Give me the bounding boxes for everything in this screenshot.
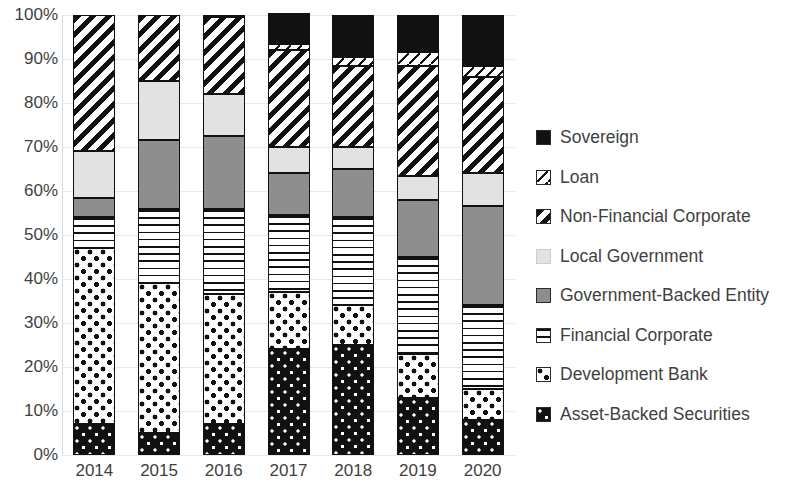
x-axis-tick-label: 2017 (256, 461, 321, 481)
gridline-0 (62, 455, 515, 456)
y-axis-tick-label: 30% (0, 314, 58, 331)
legend-item[interactable]: Sovereign (536, 118, 794, 158)
bar-segment[interactable] (73, 424, 115, 455)
y-axis-tick-label: 0% (0, 446, 58, 463)
legend-item-label: Sovereign (560, 128, 639, 147)
bar-segment[interactable] (138, 140, 180, 208)
bar-segment[interactable] (203, 15, 245, 17)
bar-segment[interactable] (397, 257, 439, 354)
bar-segment[interactable] (397, 354, 439, 398)
legend-item-label: Non-Financial Corporate (560, 207, 751, 226)
bar-2020[interactable] (462, 15, 504, 455)
y-axis-tick-label: 10% (0, 402, 58, 419)
bar-segment[interactable] (203, 94, 245, 136)
bar-segment[interactable] (462, 305, 504, 389)
stacked-bar-chart: 0%10%20%30%40%50%60%70%80%90%100% Sovere… (0, 0, 795, 492)
chart-legend: SovereignLoanNon-Financial CorporateLoca… (536, 118, 794, 434)
y-axis-tick-label: 90% (0, 50, 58, 67)
y-axis: 0%10%20%30%40%50%60%70%80%90%100% (0, 0, 58, 492)
legend-item[interactable]: Development Bank (536, 355, 794, 395)
legend-item-label: Local Government (560, 247, 703, 266)
legend-item-label: Development Bank (560, 365, 708, 384)
bar-segment[interactable] (73, 217, 115, 248)
bar-segment[interactable] (332, 66, 374, 147)
bar-segment[interactable] (462, 66, 504, 77)
bar-segment[interactable] (397, 66, 439, 176)
bar-segment[interactable] (268, 292, 310, 349)
legend-item-label: Asset-Backed Securities (560, 405, 750, 424)
bar-segment[interactable] (138, 81, 180, 140)
x-axis-tick-label: 2014 (62, 461, 127, 481)
legend-item[interactable]: Asset-Backed Securities (536, 395, 794, 435)
legend-item[interactable]: Local Government (536, 237, 794, 277)
bar-segment[interactable] (332, 345, 374, 455)
bar-segment[interactable] (73, 198, 115, 218)
bar-2017[interactable] (268, 15, 310, 455)
bar-2015[interactable] (138, 15, 180, 455)
legend-swatch-icon (536, 367, 551, 382)
legend-item-label: Financial Corporate (560, 326, 713, 345)
bar-segment[interactable] (397, 200, 439, 257)
legend-item[interactable]: Non-Financial Corporate (536, 197, 794, 237)
bar-segment[interactable] (397, 52, 439, 65)
bar-segment[interactable] (462, 173, 504, 206)
bar-segment[interactable] (462, 77, 504, 174)
bar-segment[interactable] (268, 13, 310, 44)
x-axis-tick-label: 2015 (127, 461, 192, 481)
bar-segment[interactable] (138, 283, 180, 433)
bar-segment[interactable] (203, 294, 245, 424)
bar-segment[interactable] (138, 433, 180, 455)
legend-swatch-icon (536, 130, 551, 145)
bar-segment[interactable] (397, 15, 439, 52)
bar-segment[interactable] (268, 349, 310, 455)
y-axis-tick-label: 70% (0, 138, 58, 155)
bar-segment[interactable] (203, 209, 245, 295)
bar-segment[interactable] (332, 57, 374, 66)
y-axis-tick-label: 40% (0, 270, 58, 287)
y-axis-tick-label: 50% (0, 226, 58, 243)
bar-segment[interactable] (138, 209, 180, 284)
legend-item[interactable]: Government-Backed Entity (536, 276, 794, 316)
x-axis-tick-label: 2018 (321, 461, 386, 481)
bar-segment[interactable] (332, 15, 374, 57)
legend-item[interactable]: Loan (536, 158, 794, 198)
bar-segment[interactable] (462, 420, 504, 455)
bar-segment[interactable] (73, 248, 115, 424)
bar-segment[interactable] (203, 424, 245, 455)
bar-segment[interactable] (397, 398, 439, 455)
bar-segment[interactable] (332, 305, 374, 345)
bar-segment[interactable] (268, 215, 310, 292)
bar-segment[interactable] (332, 169, 374, 217)
bar-segment[interactable] (332, 217, 374, 305)
x-axis-tick-label: 2019 (386, 461, 451, 481)
bar-segment[interactable] (332, 147, 374, 169)
bar-2019[interactable] (397, 15, 439, 455)
bar-2018[interactable] (332, 15, 374, 455)
bar-segment[interactable] (73, 15, 115, 151)
bar-segment[interactable] (203, 17, 245, 94)
bar-segment[interactable] (462, 389, 504, 420)
bar-segment[interactable] (138, 15, 180, 81)
legend-swatch-icon (536, 209, 551, 224)
legend-swatch-icon (536, 328, 551, 343)
y-axis-tick-label: 80% (0, 94, 58, 111)
bar-2016[interactable] (203, 15, 245, 455)
bar-segment[interactable] (268, 147, 310, 173)
y-axis-tick-label: 100% (0, 6, 58, 23)
bar-segment[interactable] (462, 15, 504, 66)
bar-segment[interactable] (203, 136, 245, 209)
bar-segment[interactable] (73, 151, 115, 197)
legend-item-label: Government-Backed Entity (560, 286, 769, 305)
bar-segment[interactable] (268, 50, 310, 147)
bar-segment[interactable] (268, 173, 310, 215)
legend-item[interactable]: Financial Corporate (536, 316, 794, 356)
bar-2014[interactable] (73, 15, 115, 455)
legend-swatch-icon (536, 407, 551, 422)
y-axis-tick-label: 60% (0, 182, 58, 199)
x-axis-tick-label: 2020 (450, 461, 515, 481)
bar-segment[interactable] (397, 176, 439, 200)
bar-segment[interactable] (268, 44, 310, 51)
legend-swatch-icon (536, 249, 551, 264)
y-axis-tick-label: 20% (0, 358, 58, 375)
bar-segment[interactable] (462, 206, 504, 305)
